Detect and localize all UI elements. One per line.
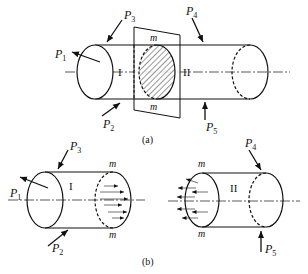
force-label-p5: P5 [205,120,217,136]
cut-label-m-top-ii: m [198,158,205,169]
internal-force-arrows-i [100,186,128,218]
section-label-ii: II [183,66,191,78]
caption-b: (b) [142,256,154,268]
cylinder-left-end [77,45,113,99]
part-a: P1 P2 P3 P4 P5 I II m m (a) [54,4,290,146]
internal-force-arrows-ii [177,179,208,218]
caption-a: (a) [142,134,153,146]
cut-label-m-top-i: m [109,158,116,169]
cut-label-m-bottom-i: m [109,229,116,240]
force-arrow-p4 [192,18,203,42]
cut-face-ii [185,173,219,227]
force-label-b-p5: P5 [264,242,276,258]
part-b-left: P1 P2 P3 I m m [8,139,145,257]
plane-label-m-bottom: m [150,101,157,112]
force-label-b-p4: P4 [244,136,256,152]
part-b-right: P4 P5 II m m [168,136,300,258]
force-label-b-p3: P3 [69,139,81,155]
force-label-p3: P3 [123,8,135,24]
force-label-p2: P2 [102,117,114,133]
plane-label-m-top: m [150,32,157,43]
force-label-b-p1: P1 [9,186,21,202]
section-label-b-i: I [69,180,73,192]
force-label-p1: P1 [54,47,66,63]
section-label-b-ii: II [230,182,238,194]
method-of-sections-diagram: P1 P2 P3 P4 P5 I II m m (a) [0,0,308,274]
force-label-b-p2: P2 [51,241,63,257]
section-label-i: I [118,66,122,78]
force-label-p4: P4 [185,4,197,20]
force-arrow-p3 [107,20,122,42]
force-arrow-p2 [102,103,120,116]
cut-label-m-bottom-ii: m [198,228,205,239]
